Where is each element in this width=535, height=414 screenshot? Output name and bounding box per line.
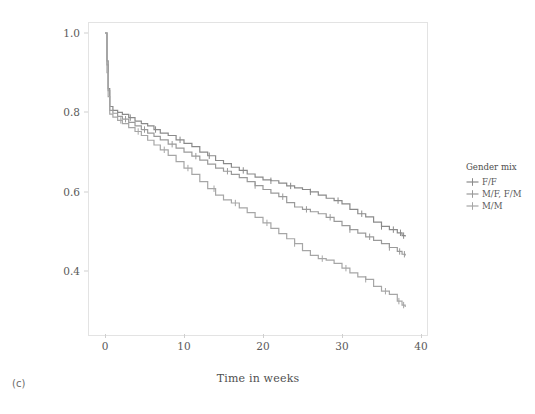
- legend-key-censor-icon: [466, 177, 479, 187]
- x-axis-title: Time in weeks: [88, 372, 428, 385]
- y-tick-mark: [84, 112, 88, 113]
- legend-item[interactable]: M/M: [466, 200, 532, 212]
- y-tick-label: 1.0: [28, 27, 80, 39]
- survival-curve-ff: [105, 33, 405, 236]
- survival-curves: [89, 23, 427, 335]
- legend-key-censor-icon: [466, 189, 479, 199]
- x-tick-label: 0: [85, 340, 125, 352]
- x-tick-mark: [342, 334, 343, 338]
- y-tick-mark: [84, 271, 88, 272]
- panel-label: (c): [12, 378, 25, 389]
- x-tick-label: 30: [322, 340, 362, 352]
- x-tick-label: 40: [401, 340, 441, 352]
- x-tick-mark: [184, 334, 185, 338]
- legend-item-label: F/F: [482, 177, 497, 187]
- y-tick-label: 0.8: [28, 106, 80, 118]
- legend-item-label: M/F, F/M: [482, 189, 521, 199]
- survival-curve-mm: [105, 33, 405, 307]
- plot-panel: [88, 22, 428, 336]
- survival-plot-figure: (c) Survival probability Time in weeks 0…: [0, 0, 535, 414]
- y-tick-mark: [84, 191, 88, 192]
- y-tick-label: 0.6: [28, 186, 80, 198]
- y-tick-label: 0.4: [28, 265, 80, 277]
- survival-curve-mffm: [105, 33, 405, 255]
- legend-title: Gender mix: [466, 162, 532, 172]
- legend-key-censor-icon: [466, 201, 479, 211]
- legend-items: F/FM/F, F/MM/M: [466, 176, 532, 212]
- legend-item[interactable]: F/F: [466, 176, 532, 188]
- x-tick-label: 20: [243, 340, 283, 352]
- x-tick-mark: [421, 334, 422, 338]
- x-tick-label: 10: [164, 340, 204, 352]
- legend-item-label: M/M: [482, 201, 503, 211]
- y-tick-mark: [84, 33, 88, 34]
- legend: Gender mix F/FM/F, F/MM/M: [466, 162, 532, 212]
- legend-item[interactable]: M/F, F/M: [466, 188, 532, 200]
- x-tick-mark: [105, 334, 106, 338]
- x-tick-mark: [263, 334, 264, 338]
